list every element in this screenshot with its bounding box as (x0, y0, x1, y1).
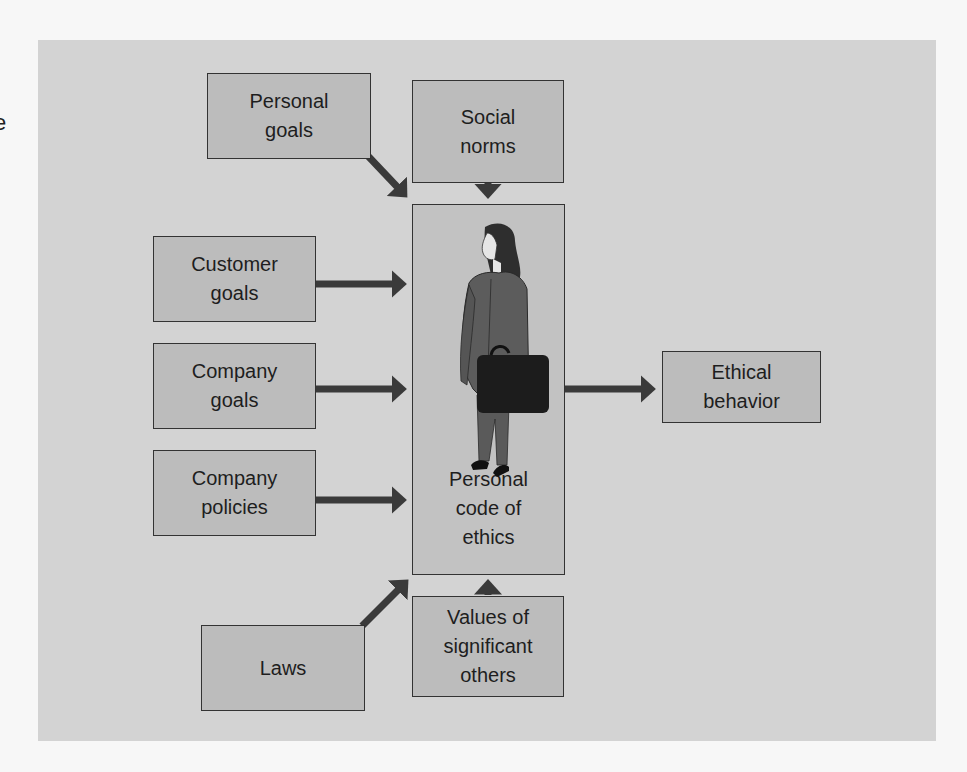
laws-box: Laws (201, 625, 365, 711)
box-label: Company policies (192, 464, 278, 522)
personal-goals-box: Personal goals (207, 73, 371, 159)
box-label: Social norms (460, 103, 516, 161)
box-label: Customer goals (191, 250, 278, 308)
businesswoman-figure-icon (439, 219, 549, 481)
customer-goals-box: Customer goals (153, 236, 316, 322)
values-of-significant-others-box: Values of significant others (412, 596, 564, 697)
personal-code-of-ethics-box: Personal code of ethics (412, 204, 565, 575)
box-label: Laws (260, 654, 307, 683)
cropped-text-fragment: e (0, 110, 6, 136)
box-label: Ethical behavior (703, 358, 780, 416)
social-norms-box: Social norms (412, 80, 564, 183)
ethical-behavior-box: Ethical behavior (662, 351, 821, 423)
box-label: Personal goals (250, 87, 329, 145)
company-policies-box: Company policies (153, 450, 316, 536)
box-label: Company goals (192, 357, 278, 415)
box-label: Values of significant others (444, 603, 533, 690)
company-goals-box: Company goals (153, 343, 316, 429)
